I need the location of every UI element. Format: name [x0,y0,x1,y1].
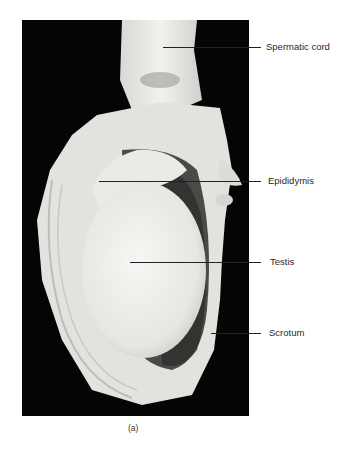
leader-line-spermatic-cord [163,47,261,48]
leader-line-epididymis [99,181,261,182]
label-spermatic-cord: Spermatic cord [266,42,330,52]
label-scrotum: Scrotum [269,328,304,338]
label-testis: Testis [270,257,294,267]
specimen-photo [22,20,249,416]
figure-caption: (a) [128,423,138,433]
label-epididymis: Epididymis [268,176,314,186]
leader-line-scrotum [211,333,261,334]
leader-line-testis [130,262,261,263]
testis-specimen-illustration [22,20,249,416]
